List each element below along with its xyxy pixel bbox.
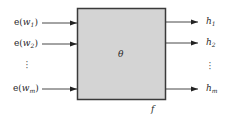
input-label-2: e(w2) <box>14 39 38 49</box>
function-label: f <box>151 105 154 114</box>
output-ellipsis: ··· <box>207 62 213 71</box>
diagram-canvas: e(w1) e(w2) ··· e(wm) θ f h1 h2 ··· hm <box>0 0 227 121</box>
output-label-m: hm <box>206 84 218 94</box>
input-label-1: e(w1) <box>14 18 38 28</box>
input-ellipsis: ··· <box>24 61 30 70</box>
param-label: θ <box>118 50 123 59</box>
output-label-1: h1 <box>206 17 216 27</box>
output-label-2: h2 <box>206 38 216 48</box>
input-label-m: e(wm) <box>13 84 39 94</box>
